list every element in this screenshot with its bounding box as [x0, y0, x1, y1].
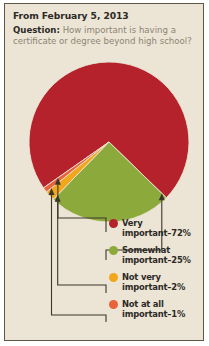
leader-arrowhead	[55, 195, 61, 202]
question-block: Question: How important is having a cert…	[13, 25, 197, 47]
leader-line	[52, 195, 107, 322]
legend-label-not-very-important: Not very important–2%	[122, 272, 185, 292]
date-line: From February 5, 2013	[13, 10, 197, 22]
infographic-card: From February 5, 2013 Question: How impo…	[4, 3, 204, 341]
legend-label-very-important: Very important–72%	[122, 218, 191, 238]
legend-swatch-very-important	[109, 219, 118, 228]
legend-item-very-important[interactable]: Very important–72%	[109, 218, 201, 238]
pie-slice[interactable]	[29, 62, 189, 198]
pie-slice[interactable]	[43, 142, 109, 192]
legend-line2: important–2%	[122, 282, 185, 292]
chart-legend: Very important–72% Somewhat important–25…	[109, 218, 201, 326]
legend-item-somewhat-important[interactable]: Somewhat important–25%	[109, 245, 201, 265]
legend-label-not-at-all-important: Not at all important–1%	[122, 299, 185, 319]
pie-slice[interactable]	[53, 142, 166, 222]
legend-swatch-not-very-important	[109, 273, 118, 282]
legend-swatch-not-at-all-important	[109, 300, 118, 309]
header: From February 5, 2013 Question: How impo…	[13, 10, 197, 47]
legend-line2: important–72%	[122, 228, 191, 238]
legend-line2: important–1%	[122, 309, 185, 319]
leader-arrowhead	[55, 178, 61, 185]
legend-swatch-somewhat-important	[109, 246, 118, 255]
legend-line1: Not at all	[122, 299, 164, 309]
legend-line2: important–25%	[122, 255, 191, 265]
pie-slice[interactable]	[46, 142, 109, 199]
legend-label-somewhat-important: Somewhat important–25%	[122, 245, 191, 265]
leader-line	[58, 185, 106, 232]
legend-item-not-at-all-important[interactable]: Not at all important–1%	[109, 299, 201, 319]
legend-line1: Somewhat	[122, 245, 170, 255]
question-label: Question:	[13, 25, 60, 35]
leader-line	[58, 202, 106, 293]
leader-arrowhead	[49, 188, 55, 195]
pie-slices	[29, 62, 189, 222]
legend-line1: Not very	[122, 272, 161, 282]
legend-item-not-very-important[interactable]: Not very important–2%	[109, 272, 201, 292]
legend-line1: Very	[122, 218, 143, 228]
leader-arrowhead	[159, 193, 165, 200]
